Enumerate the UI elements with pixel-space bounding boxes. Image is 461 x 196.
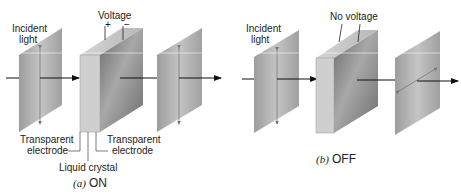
incident-light-label: light: [251, 34, 270, 45]
incident-light-label: light: [19, 34, 38, 45]
caption-on: ON: [89, 176, 107, 190]
liquid-crystal-cell: [80, 28, 143, 132]
polarizer-2: [395, 31, 440, 135]
panel-b-off: Incident light No voltage (b) OFF: [242, 11, 458, 166]
electrode-left-label: Transparent: [20, 134, 74, 145]
liquid-crystal-label: Liquid crystal: [59, 162, 117, 173]
caption-letter-b: (b): [316, 153, 329, 166]
electrode-right-label: Transparent: [107, 134, 161, 145]
electrode-right-label: electrode: [112, 145, 154, 156]
caption-letter-a: (a): [73, 177, 86, 190]
lcd-diagram: Incident light Voltage + − Transparent e…: [0, 0, 461, 196]
no-voltage-label: No voltage: [330, 11, 378, 22]
polarizer-2: [157, 28, 202, 132]
plus-terminal: +: [105, 19, 111, 30]
minus-terminal: −: [124, 19, 130, 30]
electrode-left-label: electrode: [27, 145, 69, 156]
caption-off: OFF: [332, 152, 356, 166]
liquid-crystal-cell: [316, 30, 378, 133]
incident-light-label: Incident: [246, 23, 281, 34]
panel-a-on: Incident light Voltage + − Transparent e…: [6, 10, 221, 190]
incident-light-label: Incident: [12, 23, 47, 34]
polarizer-1: [254, 30, 299, 133]
